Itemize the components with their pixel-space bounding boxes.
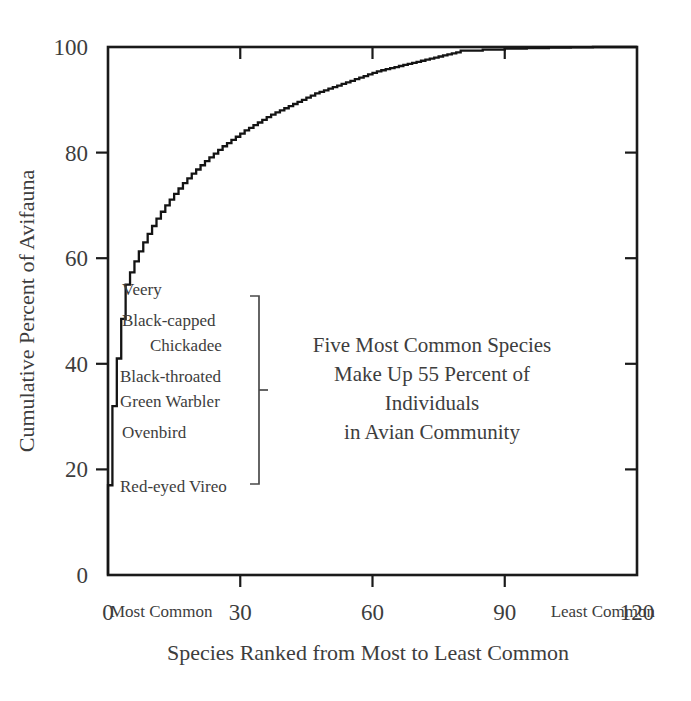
y-tick-label-0: 0 <box>77 563 89 588</box>
y-tick-label-20: 20 <box>65 457 88 482</box>
y-axis-ticks-left <box>96 153 108 470</box>
species-label-ovenbird: Ovenbird <box>122 423 187 442</box>
species-label-black-throated: Black-throated <box>120 367 222 386</box>
annotation-line-4: in Avian Community <box>344 420 520 444</box>
species-label-red-eyed-vireo: Red-eyed Vireo <box>120 477 227 496</box>
cumulative-avifauna-chart: 0306090120 020406080100 Cumulative Perce… <box>0 0 691 701</box>
annotation-line-3: Individuals <box>385 391 480 415</box>
species-label-chickadee: Chickadee <box>150 336 222 355</box>
x-axis-left-end-label: Most Common <box>110 602 213 621</box>
x-axis-title: Species Ranked from Most to Least Common <box>167 640 569 665</box>
species-label-veery: Veery <box>122 280 162 299</box>
species-label-green-warbler: Green Warbler <box>120 392 220 411</box>
species-group-bracket <box>250 296 259 484</box>
x-tick-label-30: 30 <box>229 600 252 625</box>
x-tick-label-60: 60 <box>361 600 384 625</box>
y-tick-label-40: 40 <box>65 352 88 377</box>
x-axis-ticks-bottom <box>240 575 505 587</box>
y-axis-ticks-right <box>625 153 637 470</box>
y-axis-title: Cumulative Percent of Avifauna <box>14 170 39 453</box>
y-tick-label-80: 80 <box>65 141 88 166</box>
species-label-black-capped: Black-capped <box>122 311 216 330</box>
y-tick-label-100: 100 <box>54 35 89 60</box>
annotation-line-1: Five Most Common Species <box>313 333 552 357</box>
annotation-line-2: Make Up 55 Percent of <box>334 362 530 386</box>
y-tick-label-60: 60 <box>65 246 88 271</box>
chart-figure: 0306090120 020406080100 Cumulative Perce… <box>0 0 691 701</box>
x-axis-ticks-top <box>240 47 505 59</box>
x-tick-label-90: 90 <box>493 600 516 625</box>
x-axis-right-end-label: Least Common <box>551 602 656 621</box>
y-axis-tick-labels: 020406080100 <box>54 35 89 588</box>
